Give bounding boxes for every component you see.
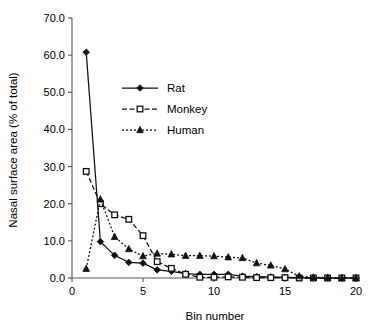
data-point: [183, 271, 189, 277]
data-point: [154, 259, 160, 265]
data-point: [169, 266, 175, 272]
y-tick-label: 50.0: [44, 86, 65, 98]
data-point: [268, 275, 274, 281]
legend-label: Rat: [167, 82, 186, 94]
x-tick-label: 20: [350, 285, 362, 297]
y-tick-label: 40.0: [44, 123, 65, 135]
y-tick-label: 30.0: [44, 161, 65, 173]
y-tick-label: 20.0: [44, 198, 65, 210]
x-axis-title: Bin number: [186, 310, 245, 322]
data-point: [126, 217, 132, 223]
x-tick-label: 15: [279, 285, 291, 297]
data-point: [197, 274, 203, 280]
data-point: [254, 275, 260, 281]
x-tick-label: 10: [208, 285, 220, 297]
line-chart: 0.010.020.030.040.050.060.070.0 05101520…: [0, 0, 382, 329]
y-tick-label: 70.0: [44, 12, 65, 24]
data-point: [211, 274, 217, 280]
legend-label: Monkey: [167, 103, 208, 115]
legend-label: Human: [167, 124, 204, 136]
data-point: [225, 274, 231, 280]
y-tick-label: 0.0: [50, 272, 65, 284]
chart-figure: 0.010.020.030.040.050.060.070.0 05101520…: [0, 0, 382, 329]
x-tick-label: 5: [140, 285, 146, 297]
y-tick-label: 60.0: [44, 49, 65, 61]
data-point: [83, 169, 89, 175]
legend-marker-monkey: [137, 106, 143, 112]
y-tick-label: 10.0: [44, 235, 65, 247]
x-tick-label: 0: [69, 285, 75, 297]
data-point: [112, 212, 118, 218]
data-point: [140, 233, 146, 239]
y-axis-title: Nasal surface area (% of total): [7, 72, 19, 227]
data-point: [240, 274, 246, 280]
data-point: [282, 275, 288, 281]
